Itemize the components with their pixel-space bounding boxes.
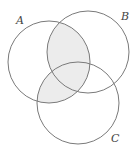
label-c: C [111,132,120,145]
label-b: B [120,10,129,23]
label-a: A [15,14,24,27]
venn-diagram: A B C [0,0,135,155]
shaded-region [37,11,129,144]
